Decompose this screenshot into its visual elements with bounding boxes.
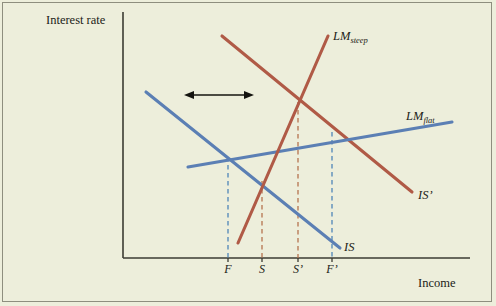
curve-label-lm-flat-sub: flat xyxy=(423,115,434,125)
islm-figure: Interest rate Income LMsteep LMflat IS’ … xyxy=(0,0,496,306)
curve-label-lm-steep: LMsteep xyxy=(333,30,368,43)
curve-label-lm-steep-base: LM xyxy=(333,29,350,43)
tick-label-F-prime: F’ xyxy=(321,263,343,275)
y-axis-label: Interest rate xyxy=(46,14,105,27)
curve-lm-flat xyxy=(188,122,452,167)
curve-label-is-prime: IS’ xyxy=(418,189,433,202)
is-shift-arrow xyxy=(184,91,254,99)
curve-label-lm-flat-base: LM xyxy=(406,109,423,123)
plot-area xyxy=(0,0,496,306)
tick-label-F: F xyxy=(217,263,239,275)
tick-label-S-prime: S’ xyxy=(287,263,309,275)
curve-label-lm-flat: LMflat xyxy=(406,110,435,123)
curve-is xyxy=(146,92,340,248)
curve-lm-steep xyxy=(238,36,328,243)
curve-label-lm-steep-sub: steep xyxy=(350,35,367,45)
tick-label-S: S xyxy=(251,263,273,275)
x-axis-label: Income xyxy=(418,277,455,290)
curve-label-is: IS xyxy=(344,241,354,254)
